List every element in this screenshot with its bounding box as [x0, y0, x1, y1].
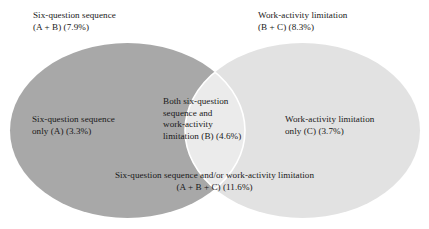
set-c-header-label: Work-activity limitation (B + C) (8.3%): [258, 10, 347, 33]
total-union-label: Six-question sequence and/or work-activi…: [0, 170, 429, 193]
region-b-overlap-label: Both six-question sequence and work-acti…: [163, 96, 241, 142]
set-a-header-label: Six-question sequence (A + B) (7.9%): [33, 10, 116, 33]
venn-label-layer: Six-question sequence (A + B) (7.9%) Wor…: [0, 0, 429, 229]
venn-diagram: Six-question sequence (A + B) (7.9%) Wor…: [0, 0, 429, 229]
region-a-only-label: Six-question sequence only (A) (3.3%): [32, 114, 115, 137]
region-c-only-label: Work-activity limitation only (C) (3.7%): [285, 114, 374, 137]
